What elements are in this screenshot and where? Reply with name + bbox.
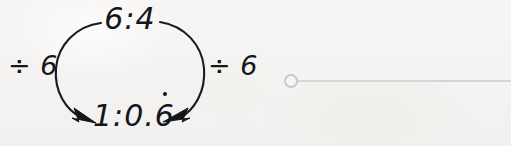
ratio-cycle-diagram: 6:4 1:0.6 ÷ 6 ÷ 6 bbox=[0, 0, 270, 146]
recurring-digit-group: 6 bbox=[155, 101, 175, 131]
recurring-digit: 6 bbox=[155, 98, 175, 133]
bottom-ratio-prefix: 1:0. bbox=[93, 98, 155, 133]
bottom-ratio-label: 1:0.6 bbox=[0, 101, 268, 131]
right-operation-label: ÷ 6 bbox=[208, 52, 258, 79]
annotation-line-widget[interactable] bbox=[280, 62, 511, 102]
top-ratio-label: 6:4 bbox=[0, 4, 260, 34]
screenshot-canvas: 6:4 1:0.6 ÷ 6 ÷ 6 bbox=[0, 0, 511, 146]
recurring-dot-icon bbox=[163, 92, 167, 96]
annotation-handle-icon[interactable] bbox=[285, 75, 297, 87]
left-operation-label: ÷ 6 bbox=[8, 52, 58, 79]
